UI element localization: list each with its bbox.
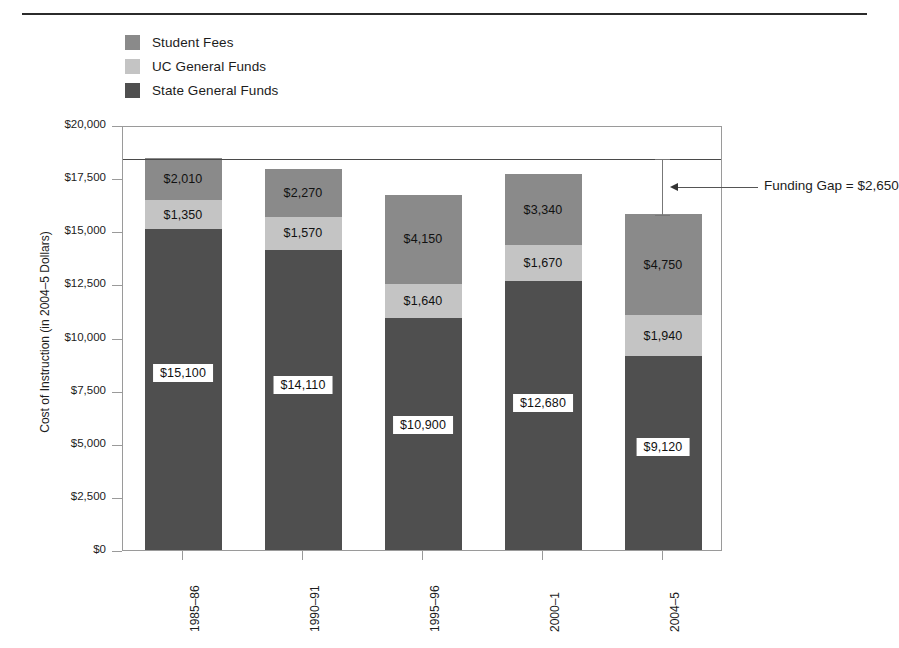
bar-segment[interactable]: $1,350 [145,200,222,229]
bar-segment[interactable]: $12,680 [505,281,582,550]
bar-segment-value-label: $1,940 [644,329,683,343]
bar-segment-value-label: $12,680 [513,394,573,412]
bar-segment[interactable]: $3,340 [505,174,582,245]
y-axis-tick-label: $17,500 [64,171,106,183]
y-axis-tick-mark [112,392,122,393]
funding-gap-vertical-line [662,159,663,215]
y-axis-tick-label: $0 [93,543,106,555]
legend-swatch-student-fees [125,35,140,50]
reference-line [123,159,721,160]
y-axis-title: Cost of Instruction (in 2004–5 Dollars) [38,117,52,547]
legend-label-state-general-funds: State General Funds [152,83,278,98]
y-axis-tick-mark [112,339,122,340]
y-axis-tick-mark [112,179,122,180]
chart-legend: Student Fees UC General Funds State Gene… [125,30,278,102]
bar-segment[interactable]: $14,110 [265,250,342,550]
annotation-leader-line [672,187,758,188]
bar-segment-value-label: $14,110 [274,376,333,394]
bar-segment-value-label: $1,350 [164,208,203,222]
bar-segment[interactable]: $9,120 [625,356,702,550]
plot-area: $2,010$1,350$15,100$2,270$1,570$14,110$4… [122,126,722,551]
annotation-arrow-icon [670,183,678,191]
bar-segment-value-label: $4,750 [644,258,683,272]
funding-gap-top-cap [655,159,670,160]
x-axis-tick-mark [182,551,183,560]
bar-segment[interactable]: $1,640 [385,284,462,319]
y-axis-tick-mark [112,126,122,127]
bar-segment-value-label: $1,640 [404,294,443,308]
bar-segment-value-label: $15,100 [153,364,213,382]
bar-segment-value-label: $9,120 [637,438,690,456]
x-axis-tick-label: 2000–1 [548,592,562,632]
y-axis-tick-label: $7,500 [71,384,106,396]
bar-segment-value-label: $4,150 [404,232,443,246]
bar-segment[interactable]: $1,940 [625,315,702,356]
funding-gap-annotation-label: Funding Gap = $2,650 [764,178,899,193]
y-axis-tick-label: $20,000 [64,118,106,130]
bar-segment-value-label: $2,010 [164,172,203,186]
x-axis-tick-mark [422,551,423,560]
bar-stack[interactable]: $2,010$1,350$15,100 [145,158,222,550]
bar-stack[interactable]: $4,150$1,640$10,900 [385,195,462,550]
legend-swatch-uc-general-funds [125,59,140,74]
y-axis-tick-label: $12,500 [64,277,106,289]
bar-segment-value-label: $1,670 [524,256,563,270]
bar-segment[interactable]: $15,100 [145,229,222,550]
legend-item-uc-general-funds: UC General Funds [125,54,278,78]
y-axis-tick-label: $5,000 [71,437,106,449]
top-horizontal-rule [22,13,867,15]
x-axis-tick-mark [302,551,303,560]
y-axis-tick-mark [112,498,122,499]
y-axis-tick-mark [112,445,122,446]
bar-segment[interactable]: $4,150 [385,195,462,283]
bar-segment[interactable]: $2,270 [265,169,342,217]
x-axis-tick-label: 2004–5 [668,592,682,632]
legend-swatch-state-general-funds [125,83,140,98]
y-axis-tick-label: $10,000 [64,331,106,343]
x-axis-tick-label: 1985–86 [188,585,202,632]
legend-item-student-fees: Student Fees [125,30,278,54]
legend-label-student-fees: Student Fees [152,35,234,50]
bar-stack[interactable]: $4,750$1,940$9,120 [625,214,702,550]
y-axis-tick-mark [112,285,122,286]
bar-segment-value-label: $1,570 [284,226,323,240]
bar-segment[interactable]: $1,670 [505,245,582,280]
funding-gap-bottom-cap [655,215,670,216]
bar-segment[interactable]: $2,010 [145,158,222,201]
bar-stack[interactable]: $3,340$1,670$12,680 [505,174,582,550]
x-axis-tick-mark [542,551,543,560]
bar-segment[interactable]: $10,900 [385,318,462,550]
y-axis-tick-mark [112,551,122,552]
bar-segment[interactable]: $4,750 [625,214,702,315]
x-axis-tick-mark [662,551,663,560]
legend-item-state-general-funds: State General Funds [125,78,278,102]
x-axis-tick-label: 1990–91 [308,585,322,632]
y-axis-tick-label: $15,000 [64,224,106,236]
legend-label-uc-general-funds: UC General Funds [152,59,266,74]
y-axis-tick-label: $2,500 [71,490,106,502]
bar-stack[interactable]: $2,270$1,570$14,110 [265,169,342,550]
bar-segment[interactable]: $1,570 [265,217,342,250]
y-axis-tick-mark [112,232,122,233]
x-axis-tick-label: 1995–96 [428,585,442,632]
bar-segment-value-label: $2,270 [284,186,323,200]
bar-segment-value-label: $10,900 [393,416,453,434]
bar-segment-value-label: $3,340 [524,203,563,217]
